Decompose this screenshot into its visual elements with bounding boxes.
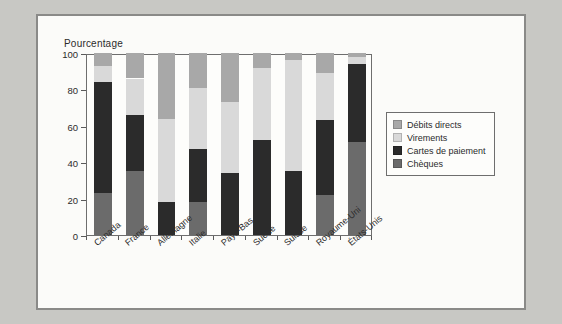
bar-segment — [316, 120, 334, 195]
bar-segment — [94, 82, 112, 193]
x-axis-labels: CanadaFranceAllemagneItaliePays-BasSuède… — [86, 240, 386, 300]
bar-segment — [221, 102, 239, 173]
bar-stack — [94, 55, 112, 235]
bar-stack — [285, 55, 303, 235]
legend-item: Débits directs — [393, 118, 486, 131]
legend-item: Cartes de paiement — [393, 144, 486, 157]
y-tick-label: 80 — [67, 85, 78, 96]
bar-column — [285, 55, 303, 235]
y-axis: 020406080100 — [38, 54, 86, 236]
bar-column — [316, 55, 334, 235]
bar-segment — [94, 53, 112, 66]
legend-item: Virements — [393, 131, 486, 144]
legend-item: Chèques — [393, 157, 486, 170]
bar-segment — [348, 53, 366, 57]
legend-swatch-icon — [393, 159, 402, 168]
figure-frame: Pourcentage 020406080100 CanadaFranceAll… — [36, 14, 526, 310]
bar-stack — [253, 55, 271, 235]
bar-column — [94, 55, 112, 235]
bar-segment — [316, 53, 334, 73]
y-tick-label: 60 — [67, 121, 78, 132]
y-tick-label: 40 — [67, 158, 78, 169]
legend-swatch-icon — [393, 146, 402, 155]
y-axis-title: Pourcentage — [64, 38, 123, 49]
chart-legend: Débits directsVirementsCartes de paiemen… — [386, 112, 495, 176]
legend-swatch-icon — [393, 133, 402, 142]
bar-segment — [253, 140, 271, 235]
bar-segment — [348, 64, 366, 142]
y-tick-label: 20 — [67, 194, 78, 205]
bar-column — [189, 55, 207, 235]
bar-column — [158, 55, 176, 235]
bar-segment — [158, 53, 176, 119]
bar-column — [221, 55, 239, 235]
bar-stack — [316, 55, 334, 235]
stacked-bar-chart: Pourcentage 020406080100 CanadaFranceAll… — [38, 16, 528, 312]
bar-segment — [253, 53, 271, 68]
bar-stack — [158, 55, 176, 235]
legend-label: Cartes de paiement — [407, 146, 486, 156]
bar-segment — [285, 53, 303, 60]
legend-swatch-icon — [393, 120, 402, 129]
legend-label: Chèques — [407, 159, 443, 169]
bar-stack — [189, 55, 207, 235]
legend-label: Virements — [407, 133, 447, 143]
bar-segment — [126, 79, 144, 115]
bar-stack — [221, 55, 239, 235]
legend-label: Débits directs — [407, 120, 462, 130]
bar-segment — [348, 57, 366, 64]
bar-segment — [189, 149, 207, 202]
bar-column — [126, 55, 144, 235]
bar-segment — [221, 53, 239, 102]
bar-segment — [253, 68, 271, 141]
bar-segment — [94, 66, 112, 82]
bars-layer — [87, 55, 371, 235]
bar-segment — [285, 60, 303, 171]
bar-segment — [158, 119, 176, 203]
y-tick-label: 0 — [73, 231, 78, 242]
bar-segment — [126, 53, 144, 78]
y-tick-label: 100 — [62, 49, 78, 60]
bar-segment — [189, 53, 207, 88]
bar-column — [253, 55, 271, 235]
plot-area — [86, 54, 372, 236]
bar-segment — [316, 73, 334, 120]
bar-segment — [126, 115, 144, 171]
bar-stack — [126, 55, 144, 235]
bar-segment — [189, 88, 207, 150]
